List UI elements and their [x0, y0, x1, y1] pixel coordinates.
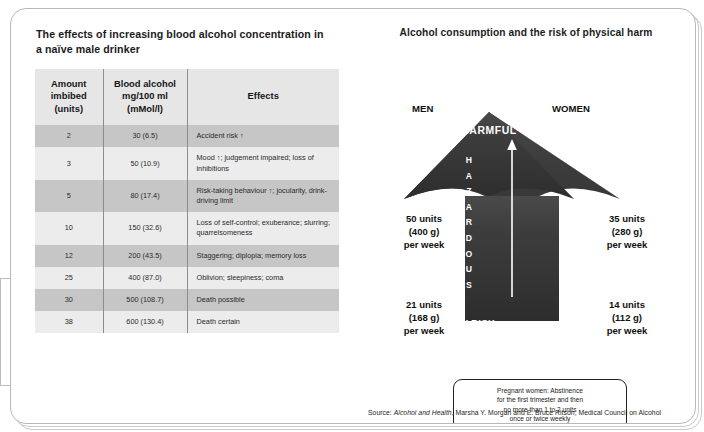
table-row: 10150 (32.6)Loss of self-control; exuber… — [35, 212, 339, 244]
table-body: 230 (6.5)Accident risk ↑350 (10.9)Mood ↑… — [35, 125, 339, 333]
women-hazardous-units-line3: per week — [607, 239, 648, 250]
column-header-blood-alcohol: Blood alcohol mg/100 ml (mMol/l) — [103, 69, 187, 125]
risk-diagram-panel: Alcohol consumption and the risk of phys… — [356, 23, 696, 415]
diagram-title: Alcohol consumption and the risk of phys… — [356, 27, 696, 38]
men-hazardous-units-line2: (400 g) — [409, 226, 440, 237]
cell-blood-alcohol: 400 (87.0) — [103, 267, 187, 289]
header-effects-label: Effects — [248, 90, 279, 101]
column-header-amount: Amount imbibed (units) — [35, 69, 103, 125]
cell-blood-alcohol: 600 (130.4) — [103, 311, 187, 333]
cell-effects: Risk-taking behaviour ↑; jocularity, dri… — [187, 180, 339, 212]
pregnancy-line1: Pregnant women: Abstinence — [497, 387, 583, 394]
men-low-units-line2: (168 g) — [409, 312, 440, 323]
cell-amount-imbibed: 5 — [35, 180, 103, 212]
risk-arrow-area: MEN WOMEN HARMFUL HAZARDOUS LOW RISK 50 … — [356, 49, 696, 349]
cell-amount-imbibed: 12 — [35, 245, 103, 267]
pregnancy-line2: for the first trimester and then — [497, 396, 583, 403]
cell-blood-alcohol: 80 (17.4) — [103, 180, 187, 212]
table-row: 38600 (130.4)Death certain — [35, 311, 339, 333]
label-women: WOMEN — [552, 103, 590, 114]
table-row: 30500 (108.7)Death possible — [35, 289, 339, 311]
table-title: The effects of increasing blood alcohol … — [36, 27, 326, 56]
table-row: 25400 (87.0)Oblivion; sleepiness; coma — [35, 267, 339, 289]
source-citation: Source: Alcohol and Health, Marsha Y. Mo… — [368, 409, 692, 416]
cell-effects: Oblivion; sleepiness; coma — [187, 267, 339, 289]
women-hazardous-units-line2: (280 g) — [612, 226, 643, 237]
table-row: 350 (10.9)Mood ↑; judgement impaired; lo… — [35, 147, 339, 179]
women-hazardous-units: 35 units (280 g) per week — [584, 213, 670, 251]
cell-amount-imbibed: 2 — [35, 125, 103, 147]
cell-blood-alcohol: 50 (10.9) — [103, 147, 187, 179]
source-authors: , Marsha Y. Morgan and E. Bruce Ritson, … — [452, 409, 661, 416]
column-header-effects: Effects — [187, 69, 339, 125]
band-label-harmful: HARMFUL — [434, 125, 544, 136]
header-bac-line2: mg/100 ml — [122, 90, 168, 101]
cell-effects: Accident risk ↑ — [187, 125, 339, 147]
cell-effects: Loss of self-control; exuberance; slurri… — [187, 212, 339, 244]
blood-alcohol-effects-table: Amount imbibed (units) Blood alcohol mg/… — [35, 69, 339, 333]
header-amount-line2: imbibed — [51, 90, 87, 101]
cell-blood-alcohol: 200 (43.5) — [103, 245, 187, 267]
men-hazardous-units-line1: 50 units — [406, 213, 442, 224]
header-bac-line1: Blood alcohol — [114, 78, 176, 89]
women-hazardous-units-line1: 35 units — [609, 213, 645, 224]
men-low-units-line1: 21 units — [406, 299, 442, 310]
pregnancy-line4: once or twice weekly — [510, 415, 571, 422]
cell-amount-imbibed: 3 — [35, 147, 103, 179]
cell-effects: Death certain — [187, 311, 339, 333]
cell-blood-alcohol: 30 (6.5) — [103, 125, 187, 147]
cell-amount-imbibed: 38 — [35, 311, 103, 333]
women-low-units-line2: (112 g) — [612, 312, 642, 323]
women-low-risk-units: 14 units (112 g) per week — [584, 299, 670, 337]
cell-effects: Death possible — [187, 289, 339, 311]
blood-alcohol-table-panel: The effects of increasing blood alcohol … — [29, 23, 344, 408]
table-header-row: Amount imbibed (units) Blood alcohol mg/… — [35, 69, 339, 125]
pregnancy-advice-box: Pregnant women: Abstinence for the first… — [453, 379, 627, 424]
table-row: 580 (17.4)Risk-taking behaviour ↑; jocul… — [35, 180, 339, 212]
women-low-units-line3: per week — [607, 325, 648, 336]
men-hazardous-units-line3: per week — [404, 239, 445, 250]
cell-effects: Mood ↑; judgement impaired; loss of inhi… — [187, 147, 339, 179]
men-low-risk-units: 21 units (168 g) per week — [382, 299, 466, 337]
cell-effects: Staggering; diplopia; memory loss — [187, 245, 339, 267]
source-prefix: Source: — [368, 409, 392, 416]
cell-amount-imbibed: 30 — [35, 289, 103, 311]
header-amount-line3: (units) — [54, 103, 83, 114]
women-low-units-line1: 14 units — [609, 299, 645, 310]
cell-amount-imbibed: 25 — [35, 267, 103, 289]
cell-blood-alcohol: 500 (108.7) — [103, 289, 187, 311]
table-row: 230 (6.5)Accident risk ↑ — [35, 125, 339, 147]
source-title: Alcohol and Health — [394, 409, 452, 416]
cell-blood-alcohol: 150 (32.6) — [103, 212, 187, 244]
header-amount-line1: Amount — [51, 78, 86, 89]
header-bac-line3: (mMol/l) — [127, 103, 163, 114]
page-card: The effects of increasing blood alcohol … — [10, 8, 696, 424]
men-hazardous-units: 50 units (400 g) per week — [382, 213, 466, 251]
men-low-units-line3: per week — [404, 325, 445, 336]
table-row: 12200 (43.5)Staggering; diplopia; memory… — [35, 245, 339, 267]
cell-amount-imbibed: 10 — [35, 212, 103, 244]
label-men: MEN — [412, 103, 433, 114]
